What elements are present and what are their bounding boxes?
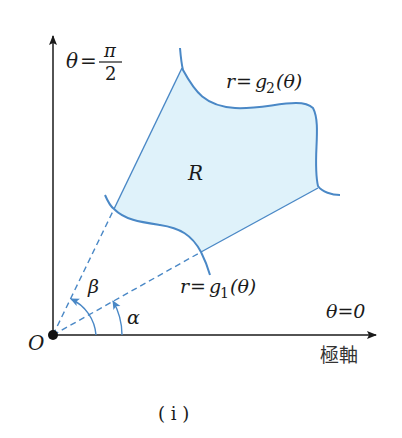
vertical-axis-equals: = [80, 49, 97, 73]
angle-alpha-label: α [127, 306, 140, 328]
svg-text:=: = [190, 275, 206, 297]
region-r-fill [114, 68, 318, 252]
angle-arc-alpha [113, 301, 122, 335]
outer-curve-label: r = g 2 (θ) [226, 70, 302, 96]
ray-beta-dashed [53, 209, 114, 335]
polar-region-diagram: θ = π 2 r = g 2 (θ) R r = g 1 (θ) β α θ=… [0, 0, 402, 438]
svg-text:1: 1 [220, 285, 229, 301]
origin-label: O [28, 331, 44, 355]
vertical-axis-two: 2 [105, 63, 116, 84]
svg-text:=: = [236, 70, 252, 92]
svg-text:(θ): (θ) [230, 275, 256, 297]
polar-axis-theta-label: θ=0 [326, 300, 365, 322]
svg-text:(θ): (θ) [276, 70, 302, 92]
vertical-axis-pi: π [103, 40, 117, 61]
region-label: R [187, 161, 203, 185]
polar-axis-name: 極軸 [320, 344, 358, 366]
svg-text:2: 2 [266, 80, 275, 96]
angle-arc-beta [71, 299, 96, 335]
vertical-axis-theta-label: θ [66, 49, 78, 73]
inner-curve-label: r = g 1 (θ) [180, 275, 256, 301]
angle-beta-label: β [87, 275, 99, 297]
figure-caption: ( i ) [158, 403, 189, 424]
origin-point [48, 330, 58, 340]
